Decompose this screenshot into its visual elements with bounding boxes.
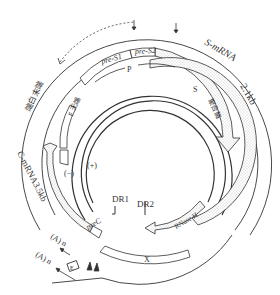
poly-a-label-2: (A) n: [34, 250, 53, 266]
x-label: X: [144, 255, 150, 264]
pre-s2-label: pre-S2: [134, 46, 156, 56]
dr2-label: DR2: [137, 199, 154, 209]
start-site-arrows: [132, 20, 178, 33]
minus-strand-box: [60, 150, 68, 165]
s-mrna-label: S-mRNA: [203, 36, 239, 63]
hbv-genome-diagram: S-mRNA 2.1kb C-mRNA3.5kb pre-S1 pre-S2 P…: [0, 0, 280, 295]
enhancer-label: E: [70, 265, 74, 271]
minus-strand-label: (−): [64, 169, 74, 178]
dr1-label: DR1: [112, 194, 129, 204]
poly-a-label-1: (A) n: [49, 232, 68, 248]
s-region-label: S: [193, 85, 197, 94]
p-label: P: [127, 65, 132, 74]
plus-strand-label: (+): [87, 161, 97, 170]
enhancer-element: [56, 248, 99, 280]
c-mrna-label: C-mRNA3.5kb: [15, 149, 49, 203]
outer-transcript-circles: [22, 40, 272, 285]
